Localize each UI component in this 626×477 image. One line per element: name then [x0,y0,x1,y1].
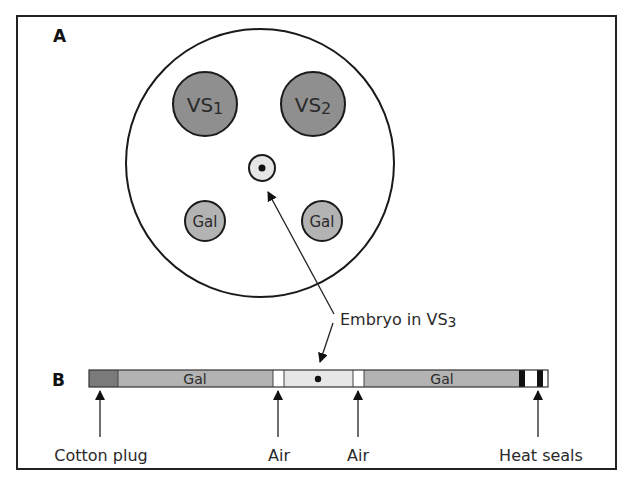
drop-gal-left-label: Gal [193,213,218,231]
straw: Gal Gal [89,370,548,387]
straw-segment-heat-seal-1 [519,370,525,387]
embryo-dot [259,165,266,172]
culture-dish: VS1 VS2 Gal Gal [126,29,394,297]
heat-seals-label: Heat seals [499,446,583,465]
straw-segment-heat-seal-2 [537,370,543,387]
embryo-drop-vs3 [249,155,275,181]
straw-segment-cotton-plug [89,370,118,387]
callout-label: Embryo in VS3 [340,310,456,330]
cotton-plug-label: Cotton plug [54,446,147,465]
straw-segment-air-2 [353,370,364,387]
panel-label-a: A [53,26,67,46]
drop-gal-left: Gal [185,201,225,241]
straw-segment-end [543,370,548,387]
straw-embryo-dot [315,376,321,382]
air-2-label: Air [347,446,369,465]
vitrification-diagram: A B VS1 VS2 Gal Gal Embryo in VS3 [0,0,626,477]
drop-vs2: VS2 [281,72,345,136]
straw-segment-air-1 [273,370,284,387]
straw-gal-2-label: Gal [430,371,453,387]
drop-gal-right-label: Gal [310,213,335,231]
air-1-label: Air [268,446,290,465]
straw-gal-1-label: Gal [183,371,206,387]
drop-gal-right: Gal [302,201,342,241]
straw-segment-gap [525,370,537,387]
drop-vs1: VS1 [173,72,237,136]
panel-label-b: B [52,370,65,390]
